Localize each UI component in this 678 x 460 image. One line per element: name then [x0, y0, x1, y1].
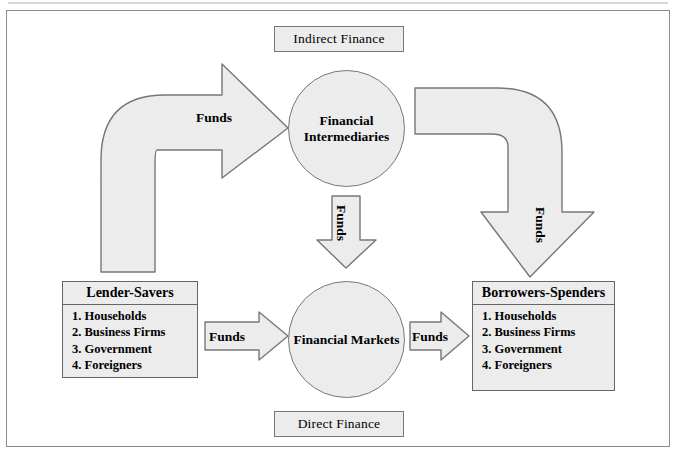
list-item: 4. Foreigners: [482, 357, 614, 374]
lender-savers-list: 1. Households 2. Business Firms 3. Gover…: [63, 305, 197, 374]
flow-label-intermediaries-to-borrowers: Funds: [532, 207, 548, 243]
list-item: 1. Households: [482, 308, 614, 325]
indirect-finance-label: Indirect Finance: [274, 26, 404, 52]
flow-label-lender-to-markets: Funds: [209, 329, 245, 345]
diagram-canvas: Funds Funds Funds Funds Funds Indirect F…: [0, 0, 678, 460]
flow-label-intermediaries-to-markets: Funds: [333, 205, 349, 241]
flow-label-markets-to-borrowers: Funds: [412, 329, 448, 345]
borrowers-spenders-list: 1. Households 2. Business Firms 3. Gover…: [473, 305, 614, 374]
lender-savers-title: Lender-Savers: [63, 282, 197, 305]
direct-finance-label: Direct Finance: [274, 411, 404, 437]
financial-intermediaries-label: Financial Intermediaries: [289, 113, 404, 145]
lender-savers-node: Lender-Savers 1. Households 2. Business …: [62, 281, 198, 378]
financial-markets-label: Financial Markets: [293, 332, 399, 348]
list-item: 3. Government: [482, 341, 614, 358]
list-item: 1. Households: [72, 308, 197, 325]
borrowers-spenders-title: Borrowers-Spenders: [473, 282, 614, 305]
curved-arrow-intermediaries-to-borrowers: [415, 88, 594, 277]
list-item: 2. Business Firms: [72, 324, 197, 341]
list-item: 2. Business Firms: [482, 324, 614, 341]
financial-intermediaries-node: Financial Intermediaries: [288, 70, 405, 187]
financial-markets-node: Financial Markets: [288, 281, 405, 398]
curved-arrow-lender-to-intermediaries: [101, 64, 288, 272]
list-item: 3. Government: [72, 341, 197, 358]
flow-label-lender-to-intermediaries: Funds: [196, 110, 232, 126]
list-item: 4. Foreigners: [72, 357, 197, 374]
borrowers-spenders-node: Borrowers-Spenders 1. Households 2. Busi…: [472, 281, 615, 391]
